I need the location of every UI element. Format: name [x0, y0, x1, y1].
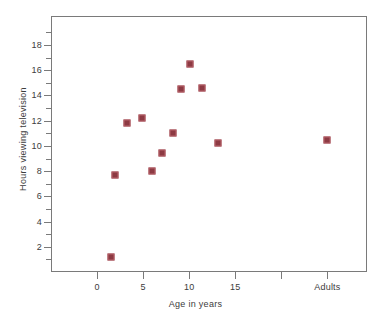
data-point-marker: [123, 120, 130, 127]
y-axis-minor-tick: [46, 209, 51, 210]
y-axis-minor-tick: [46, 234, 51, 235]
y-axis-minor-tick: [46, 83, 51, 84]
y-axis-tick-label: 8: [37, 167, 42, 176]
y-axis-minor-tick: [46, 58, 51, 59]
y-axis-minor-tick: [46, 184, 51, 185]
x-axis-tick: [143, 272, 144, 279]
y-axis-minor-tick: [46, 259, 51, 260]
y-axis-minor-tick: [46, 32, 51, 33]
y-axis-minor-tick: [46, 108, 51, 109]
y-axis-tick-label: 14: [32, 91, 42, 100]
scatter-plot-figure: 24681012141618051015Adults Hours viewing…: [0, 0, 391, 321]
plot-area-frame: [51, 16, 367, 272]
y-axis-tick: [44, 146, 51, 147]
x-axis-tick: [97, 272, 98, 279]
data-point-marker: [187, 60, 194, 67]
y-axis-tick-label: 16: [32, 66, 42, 75]
y-axis-tick: [44, 95, 51, 96]
y-axis-tick: [44, 196, 51, 197]
y-axis-tick: [44, 222, 51, 223]
y-axis-title: Hours viewing television: [18, 54, 28, 224]
data-point-marker: [158, 150, 165, 157]
data-point-marker: [139, 115, 146, 122]
y-axis-tick: [44, 247, 51, 248]
y-axis-tick-label: 18: [32, 41, 42, 50]
x-axis-tick-label: 5: [141, 282, 146, 292]
y-axis-minor-tick: [46, 133, 51, 134]
y-axis-tick-label: 2: [37, 243, 42, 252]
y-axis-tick: [44, 45, 51, 46]
y-axis-tick-label: 12: [32, 117, 42, 126]
x-axis-tick-label: 10: [184, 282, 194, 292]
data-point-marker: [169, 130, 176, 137]
x-axis-tick-label: 0: [94, 282, 99, 292]
x-axis-tick-label: Adults: [314, 282, 340, 292]
data-point-marker: [177, 86, 184, 93]
data-point-marker: [111, 171, 118, 178]
x-axis-title: Age in years: [0, 299, 391, 309]
x-axis-tick: [235, 272, 236, 279]
y-axis-tick: [44, 171, 51, 172]
data-point-marker: [107, 253, 114, 260]
y-axis-tick-label: 6: [37, 192, 42, 201]
y-axis-tick: [44, 121, 51, 122]
y-axis-tick: [44, 70, 51, 71]
data-point-marker: [214, 140, 221, 147]
x-axis-tick: [281, 272, 282, 279]
y-axis-tick-label: 4: [37, 218, 42, 227]
data-point-marker: [199, 84, 206, 91]
y-axis-tick-label: 10: [32, 142, 42, 151]
x-axis-tick: [189, 272, 190, 279]
x-axis-tick: [327, 272, 328, 279]
data-point-marker: [149, 168, 156, 175]
x-axis-tick-label: 15: [230, 282, 240, 292]
data-point-marker: [324, 136, 331, 143]
y-axis-minor-tick: [46, 159, 51, 160]
